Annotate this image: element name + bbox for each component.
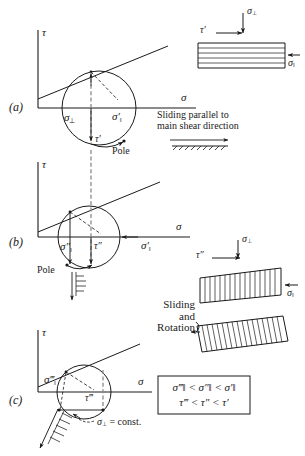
panel-b-id: (b) [9,236,23,248]
panel-c-id: (c) [9,394,22,406]
panel-b-tau-label: τ″ [94,241,102,251]
panel-a-failure-envelope [38,46,168,99]
panel-a-annotation: Sliding parallel to main shear direction [157,110,239,131]
block-top-layers [198,48,285,63]
panel-a-tau-axis-label: τ [42,27,46,38]
block-bottom-layers [202,316,282,351]
panel-a-dashed-radius [91,72,118,100]
panel-b-pole-label: Pole [37,265,55,275]
panel-b-tau-axis-label: τ [42,159,46,170]
panel-b-pole-point [65,263,68,266]
panel-a-tau-label: τ′ [95,134,101,144]
block-top-sigma-perp-label: σ⊥ [247,6,257,17]
inequality-box: σ‴‖ < σ″‖ < σ′‖ τ‴ < τ″ < τ′ [160,380,248,410]
panel-c-tau-label: τ‴ [85,393,93,403]
block-top-outline [198,43,285,68]
panel-b-sigma2-label: σ″‖ [60,241,72,253]
panel-a-pole-label: Pole [112,146,130,156]
block-middle-diagram [200,240,298,303]
panel-a-sigma-axis-label: σ [181,92,186,103]
panel-c-sigma-axis-label: σ [138,376,143,387]
panel-c-dashed-radius [66,372,94,390]
block-middle-sigma-par-label: σ‖ [287,288,294,299]
mohr-circle-figure [0,0,305,456]
panel-a-id: (a) [9,101,23,113]
panel-a-annotation-line1: Sliding parallel to [157,110,239,121]
block-middle-layers [205,269,275,303]
panel-a-sigma-par-label: σ′‖ [112,111,122,123]
block-top-tau-label: τ′ [200,25,206,35]
panel-c-const-label: σ⊥ = const. [97,417,141,428]
block-bottom-caption-line3: Rotation [150,322,195,334]
panel-b-sigma-ref-label: σ′‖ [141,240,151,252]
panel-b-diagram [38,150,190,300]
panel-b-failure-envelope [38,182,160,232]
panel-c-diagram [38,330,152,448]
block-middle-outline [200,268,281,303]
panel-a-annotation-line2: main shear direction [157,121,239,132]
block-top-sigma-par-label: σ‖ [288,58,295,69]
block-bottom-diagram [191,316,288,352]
panel-c-movement-hatch [48,411,72,444]
panel-a-sigma-perp-label: σ⊥ [64,112,75,124]
panel-b-pole-hatch [76,272,86,296]
inequality-line-1: σ‴‖ < σ″‖ < σ′‖ [160,380,248,395]
inequality-line-2: τ‴ < τ″ < τ′ [160,395,248,410]
panel-c-const-arc [79,419,94,422]
panel-c-tau-axis-label: τ [42,327,46,338]
block-top-diagram [198,13,300,68]
panel-a-ground-hatch [173,146,225,150]
block-bottom-caption: Sliding and Rotation [150,299,195,334]
panel-b-dashed-radius [70,212,101,234]
block-bottom-caption-line1: Sliding [150,299,195,311]
block-middle-sigma-perp-label: σ⊥ [242,234,252,245]
panel-c-chord-point [101,408,104,411]
panel-b-sigma-axis-label: σ [176,221,181,232]
panel-a-pole-point [122,139,125,142]
panel-c-sigma3-label: σ‴‖ [44,374,56,386]
block-middle-tau-label: τ″ [196,250,204,260]
